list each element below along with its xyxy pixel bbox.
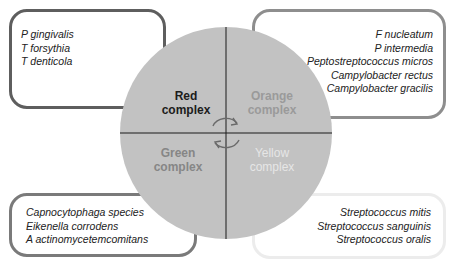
yellow-complex-label: Yellow complex	[232, 146, 312, 174]
species-item: Streptococcus sanguinis	[317, 220, 431, 234]
yellow-complex-species-list: Streptococcus mitis Streptococcus sangui…	[317, 206, 431, 247]
green-complex-label: Green complex	[138, 146, 218, 174]
red-complex-species-list: P gingivalis T forsythia T denticola	[21, 28, 74, 69]
label-line: Green	[138, 146, 218, 160]
red-complex-label: Red complex	[146, 89, 226, 117]
label-line: complex	[146, 103, 226, 117]
species-item: Streptococcus mitis	[317, 206, 431, 220]
label-line: complex	[232, 103, 312, 117]
orange-complex-label: Orange complex	[232, 89, 312, 117]
complex-wheel: Red complex Orange complex Green complex…	[120, 27, 332, 239]
species-item: P gingivalis	[21, 28, 74, 42]
label-line: Yellow	[232, 146, 312, 160]
species-item: T denticola	[21, 55, 74, 69]
label-line: complex	[138, 160, 218, 174]
wheel-graphic	[120, 27, 332, 239]
species-item: Streptococcus oralis	[317, 233, 431, 247]
label-line: Orange	[232, 89, 312, 103]
species-item: T forsythia	[21, 42, 74, 56]
label-line: Red	[146, 89, 226, 103]
label-line: complex	[232, 160, 312, 174]
